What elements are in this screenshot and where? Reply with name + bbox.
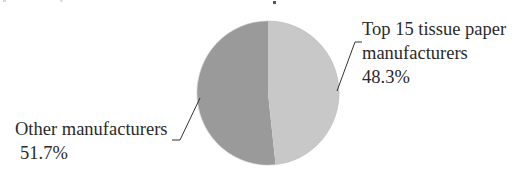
label-top15-line2: manufacturers (362, 41, 506, 65)
pie-slice-top15-manufacturers (268, 21, 339, 165)
data-label-top15: Top 15 tissue paper manufacturers 48.3% (362, 17, 506, 89)
data-label-other: Other manufacturers 51.7% (15, 117, 168, 165)
leader-line-top15 (337, 42, 362, 91)
pie-slice-other-manufacturers (197, 21, 275, 165)
label-other-line1: Other manufacturers (15, 117, 168, 141)
cropped-title-remnant (3, 0, 276, 4)
label-top15-percent: 48.3% (362, 65, 506, 89)
label-other-percent: 51.7% (15, 141, 168, 165)
label-top15-line1: Top 15 tissue paper (362, 17, 506, 41)
leader-line-other (172, 98, 200, 140)
